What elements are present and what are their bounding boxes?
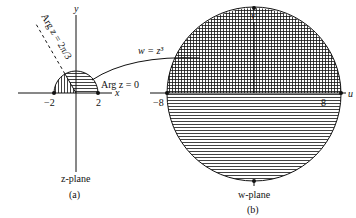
tick-neg2: −2	[44, 97, 55, 108]
point-neg8	[165, 91, 169, 95]
v-axis-label: v	[251, 10, 256, 21]
label-arg-z-0: Arg z = 0	[101, 79, 139, 90]
y-axis-label: y	[73, 3, 79, 14]
w-plane-label: w-plane	[238, 189, 271, 200]
lower-half-horizontal-hatch	[167, 93, 341, 181]
caption-a: (a)	[69, 189, 80, 201]
point-pos8	[339, 91, 343, 95]
z-plane-panel: x y −2 2 Arg z = 0 Arg z = 2π/3 z-plane …	[18, 3, 139, 201]
label-arg-z-2pi-3: Arg z = 2π/3	[39, 12, 74, 61]
conformal-mapping-figure: x y −2 2 Arg z = 0 Arg z = 2π/3 z-plane …	[0, 0, 356, 218]
tick-neg8: −8	[153, 97, 164, 108]
point-bottom-neg8i	[252, 179, 256, 183]
caption-b: (b)	[247, 204, 259, 216]
u-axis-label: u	[348, 88, 353, 99]
tick-pos2: 2	[96, 97, 101, 108]
point-neg2	[52, 91, 56, 95]
mapping-label: w = z³	[138, 45, 164, 56]
point-pos2	[96, 91, 100, 95]
z-plane-label: z-plane	[61, 173, 91, 184]
tick-pos8: 8	[321, 97, 326, 108]
w-plane-panel: u v −8 8 w-plane (b)	[150, 6, 353, 216]
